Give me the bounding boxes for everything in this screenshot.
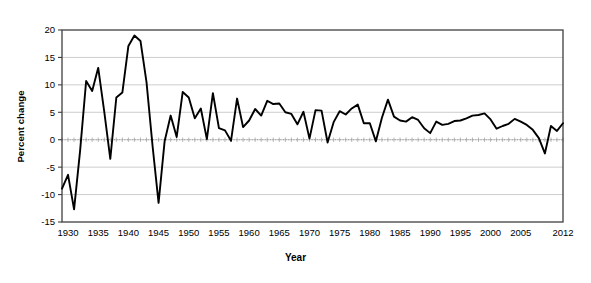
y-tick-label: 20	[44, 24, 55, 35]
x-tick-label: 1980	[359, 227, 380, 238]
y-tick-label: -5	[47, 162, 55, 173]
chart-figure: Percent change -15-10-505101520193019351…	[0, 0, 591, 283]
y-axis-label: Percent change	[15, 90, 26, 162]
x-tick-label: 2005	[510, 227, 531, 238]
x-tick-label: 1935	[88, 227, 109, 238]
y-axis-label-container: Percent change	[8, 30, 32, 222]
line-chart-plot: -15-10-505101520193019351940194519501955…	[0, 0, 591, 283]
x-tick-label: 1985	[389, 227, 410, 238]
y-tick-label: -10	[41, 189, 55, 200]
x-tick-label: 1930	[57, 227, 78, 238]
x-tick-label: 1990	[420, 227, 441, 238]
y-tick-label: 0	[50, 134, 55, 145]
x-tick-label: 1950	[178, 227, 199, 238]
x-tick-label: 1960	[239, 227, 260, 238]
x-tick-label: 1965	[269, 227, 290, 238]
x-tick-label: 1970	[299, 227, 320, 238]
y-tick-label: 15	[44, 52, 55, 63]
y-tick-label: -15	[41, 216, 55, 227]
x-tick-label: 1995	[450, 227, 471, 238]
x-tick-label: 1975	[329, 227, 350, 238]
x-tick-label: 2012	[552, 227, 573, 238]
x-axis-label: Year	[0, 252, 591, 263]
x-tick-label: 1955	[208, 227, 229, 238]
x-tick-label: 2000	[480, 227, 501, 238]
y-tick-label: 10	[44, 79, 55, 90]
x-tick-label: 1940	[118, 227, 139, 238]
y-tick-label: 5	[50, 107, 55, 118]
x-tick-label: 1945	[148, 227, 169, 238]
